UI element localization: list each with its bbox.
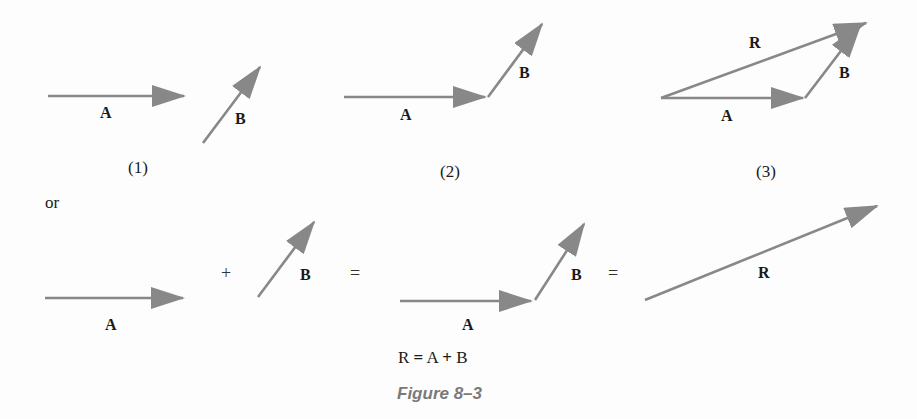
caption-panel-1: (1) [128, 158, 148, 178]
label-b-2: B [519, 64, 530, 82]
connector-or: or [45, 193, 59, 213]
vector-b-3 [805, 26, 860, 98]
label-a-row2: A [105, 316, 117, 334]
caption-panel-3: (3) [756, 162, 776, 182]
label-b-row2: B [300, 266, 311, 284]
equals-sign-2: = [608, 263, 618, 284]
formula-a: A [427, 348, 438, 367]
label-b-1: B [235, 110, 246, 128]
label-r-result: R [758, 264, 770, 282]
figure-caption: Figure 8–3 [397, 384, 482, 404]
label-a-1: A [100, 104, 112, 122]
label-a-sum: A [462, 316, 474, 334]
formula-plus: + [442, 348, 452, 367]
vector-b-1 [203, 67, 260, 143]
vector-addition-figure: A B (1) A B (2) A B R (3) or A + B = A B… [0, 0, 917, 419]
label-b-sum: B [571, 266, 582, 284]
label-a-2: A [400, 106, 412, 124]
vector-b-sum [535, 224, 584, 300]
equals-sign-1: = [350, 263, 360, 284]
label-b-3: B [839, 64, 850, 82]
plus-sign: + [221, 263, 231, 284]
formula-r: R [398, 348, 409, 367]
label-a-3: A [721, 107, 733, 125]
formula-equals: = [414, 348, 424, 367]
formula: R = A + B [398, 348, 467, 368]
label-r-3: R [749, 34, 761, 52]
formula-b: B [456, 348, 467, 367]
vector-b-row2 [258, 222, 314, 297]
caption-panel-2: (2) [440, 162, 460, 182]
vector-b-2 [488, 24, 542, 97]
vector-r-result [645, 206, 877, 300]
